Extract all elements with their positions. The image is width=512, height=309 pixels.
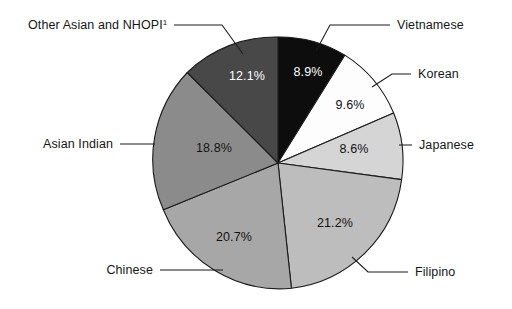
slice-value-other-asian-nhopi: 12.1% [229,69,265,83]
callout-label-japanese: Japanese [419,138,474,152]
slice-value-filipino: 21.2% [317,216,353,230]
leader-line-filipino [352,257,408,272]
pie-slices [153,37,403,289]
callout-label-other-asian-nhopi-text: Other Asian and NHOPI [28,18,163,32]
callout-label-other-asian-nhopi: Other Asian and NHOPI1 [28,18,168,33]
callout-label-korean: Korean [418,67,459,81]
pie-chart-canvas: 8.9% 9.6% 8.6% 21.2% 20.7% 18.8% 12.1% O… [0,0,512,309]
slice-value-korean: 9.6% [336,98,365,112]
slice-value-asian-indian: 18.8% [196,141,232,155]
slice-value-vietnamese: 8.9% [294,65,323,79]
callout-label-filipino: Filipino [415,265,455,279]
pie-chart-figure: 8.9% 9.6% 8.6% 21.2% 20.7% 18.8% 12.1% O… [0,0,512,309]
callout-label-chinese: Chinese [106,263,153,277]
slice-value-chinese: 20.7% [216,230,252,244]
slice-value-japanese: 8.6% [340,142,369,156]
callout-label-asian-indian: Asian Indian [43,137,113,151]
callout-label-other-asian-nhopi-footnote: 1 [163,18,168,27]
callout-label-vietnamese: Vietnamese [397,18,464,32]
